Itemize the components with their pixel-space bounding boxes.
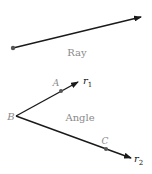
ray-endpoint bbox=[11, 46, 15, 50]
ray-label: Ray bbox=[67, 47, 87, 58]
point-c-label: C bbox=[102, 136, 109, 146]
ray-line bbox=[13, 17, 141, 48]
ray-r2-subscript: 2 bbox=[139, 159, 143, 167]
ray-r1-subscript: 1 bbox=[88, 81, 92, 89]
point-a-label: A bbox=[52, 78, 60, 88]
angle-ray-r1 bbox=[16, 82, 78, 116]
vertex-b-label: B bbox=[6, 111, 14, 122]
point-a bbox=[59, 89, 63, 93]
ray-figure: Ray bbox=[11, 17, 141, 58]
angle-figure: B A C r1 r2 Angle bbox=[6, 75, 143, 167]
point-c bbox=[104, 147, 108, 151]
ray-r1-label: r1 bbox=[83, 75, 92, 89]
ray-angle-diagram: Ray B A C r1 r2 Angle bbox=[0, 0, 152, 174]
ray-r2-label: r2 bbox=[134, 153, 143, 167]
angle-label: Angle bbox=[64, 112, 94, 123]
